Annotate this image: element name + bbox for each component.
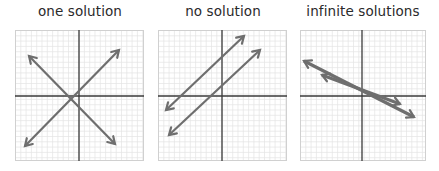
graph-none [158, 30, 287, 161]
graph-infinite [300, 30, 426, 161]
panel-title: no solution [143, 3, 303, 19]
panel-title: one solution [0, 3, 160, 19]
panel-title: infinite solutions [283, 3, 439, 19]
graph-line-a [25, 50, 119, 146]
graph-one [15, 30, 144, 161]
